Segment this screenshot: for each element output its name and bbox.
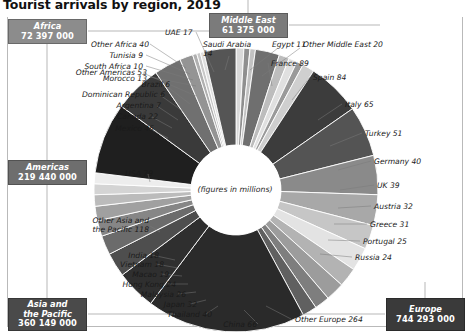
slice-label-saudi-arabia-value: 14 [203,49,213,58]
slice-label-portugal: Portugal 25 [363,238,407,247]
slice-label-other-europe: Other Europe 264 [295,316,363,325]
slice-label-saudi-arabia: Saudi Arabia 14 [203,41,251,58]
slice-label-mexico: Mexico 45 [57,125,154,134]
slice-label-uk: UK 39 [377,182,400,191]
slice-label-france: France 89 [271,60,309,69]
slice-label-italy: Italy 65 [345,101,374,110]
slice-label-japan: Japan 32 [90,301,197,310]
slice-label-canada: Canada 22 [57,113,158,122]
slice-label-macao: Macao 19 [62,271,169,280]
slice-label-uae: UAE 17 [165,29,193,38]
slice-label-usa: USA 79 [60,170,153,179]
slice-label-other-middle-east: Other Middle East 20 [303,41,383,50]
chart-page: Tourist arrivals by region, 2019 Africa … [0,0,471,336]
region-box-asia-pacific[interactable]: Asia and the Pacific 360 149 000 [8,298,87,331]
region-box-africa-value: 72 397 000 [21,32,74,42]
slice-label-turkey: Turkey 51 [365,130,402,139]
center-note: (figures in millions) [185,185,285,194]
region-box-middle-east[interactable]: Middle East 61 375 000 [209,13,288,38]
slice-label-austria: Austria 32 [374,203,413,212]
slice-label-thailand: Thailand 40 [110,311,212,320]
slice-label-china: China 66 [165,321,257,330]
slice-label-egypt: Egypt 11 [272,41,306,50]
slice-label-russia: Russia 24 [355,254,392,263]
region-box-middle-east-value: 61 375 000 [222,26,275,36]
slice-label-other-americas: Other Americas 53 [20,69,147,78]
slice-label-germany: Germany 40 [374,158,421,167]
slice-label-brazil: Brazil 6 [45,81,170,90]
slice-label-dominican-republic: Dominican Republic 6 [20,91,165,100]
slice-label-tunisia: Tunisia 9 [57,52,143,61]
slice-label-other-africa: Other Africa 40 [57,41,149,50]
slice-label-malaysia: Malaysia 26 [73,291,186,300]
slice-label-greece: Greece 31 [370,221,409,230]
slice-label-other-asia-pacific: Other Asia and the Pacific 118 [45,217,149,234]
slice-label-vietnam: Vietnam 18 [55,261,164,270]
slice-label-argentina: Argentina 7 [45,102,161,111]
slice-label-india: India 18 [55,252,159,261]
region-box-europe-value: 744 293 000 [396,315,455,325]
slice-label-hong-kong: Hong Kong 24 [62,281,176,290]
region-box-asia-value: 360 149 000 [18,319,77,329]
region-box-europe[interactable]: Europe 744 293 000 [386,298,465,331]
slice-label-other-asia-line2: the Pacific 118 [93,225,149,234]
slice-label-spain: Spain 84 [313,74,346,83]
